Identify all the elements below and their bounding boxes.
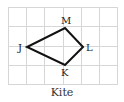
vertex-label-j: J xyxy=(17,42,22,53)
vertex-label-k: K xyxy=(61,67,69,78)
vertex-label-l: L xyxy=(86,42,93,53)
figure-caption: Kite xyxy=(0,86,124,99)
vertex-label-m: M xyxy=(61,15,71,26)
